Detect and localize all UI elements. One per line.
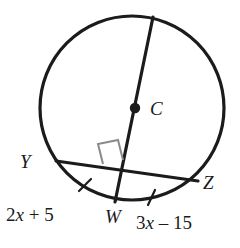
label-point-z: Z [203, 173, 214, 192]
circle-geometry-figure: C Y Z W 2x + 5 3x – 15 [0, 0, 240, 248]
right-expr-coefficient: 3 [136, 212, 146, 233]
label-center-c: C [150, 99, 163, 118]
right-angle-marker-icon [98, 140, 123, 164]
left-expr-variable: x [16, 204, 24, 225]
label-point-w: W [105, 207, 121, 226]
right-expr-variable: x [146, 212, 154, 233]
label-arc-expression-left: 2x + 5 [6, 205, 54, 224]
right-expr-operator: – [159, 212, 169, 233]
right-expr-constant: 15 [173, 212, 192, 233]
left-expr-operator: + [29, 204, 40, 225]
center-point-dot [130, 103, 140, 113]
label-arc-expression-right: 3x – 15 [136, 213, 192, 232]
left-expr-coefficient: 2 [6, 204, 16, 225]
label-point-y: Y [20, 152, 31, 171]
left-expr-constant: 5 [44, 204, 54, 225]
chord-yz-line [56, 161, 198, 181]
